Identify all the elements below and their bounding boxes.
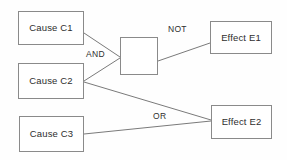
edge-gate-e1: [158, 43, 210, 61]
node-cause-c3[interactable]: Cause C3: [19, 116, 84, 152]
node-cause-c2[interactable]: Cause C2: [18, 63, 84, 99]
edge-label-not: NOT: [167, 25, 188, 34]
node-effect-e1-label: Effect E1: [221, 33, 261, 43]
edge-c2-e2: [84, 82, 211, 120]
node-effect-e1[interactable]: Effect E1: [210, 21, 272, 54]
node-cause-c1[interactable]: Cause C1: [18, 11, 84, 45]
edge-c2-gate: [84, 58, 120, 81]
node-cause-c3-label: Cause C3: [30, 129, 73, 139]
cause-effect-diagram: Cause C1 Cause C2 Cause C3 Effect E1 Eff…: [0, 0, 287, 160]
edge-label-or: OR: [152, 112, 167, 121]
node-logic-gate[interactable]: [120, 37, 158, 75]
node-cause-c1-label: Cause C1: [29, 23, 72, 33]
edge-c3-e2: [84, 121, 211, 134]
edge-label-and: AND: [85, 50, 106, 59]
node-effect-e2-label: Effect E2: [222, 117, 262, 127]
node-effect-e2[interactable]: Effect E2: [211, 105, 272, 139]
node-cause-c2-label: Cause C2: [29, 76, 72, 86]
